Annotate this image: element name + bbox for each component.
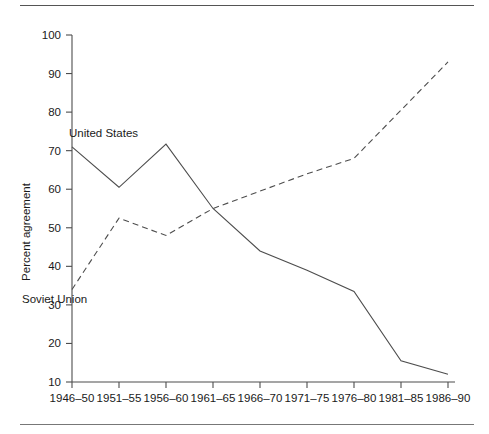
series-annotation-soviet-union: Soviet Union (22, 293, 87, 305)
series-annotation-united-states: United States (69, 127, 138, 139)
y-tick-label: 60 (48, 183, 61, 195)
y-axis-tick-labels: 102030405060708090100 (42, 29, 61, 388)
x-tick-label: 1961–65 (191, 392, 236, 404)
y-axis-title: Percent agreement (20, 182, 32, 281)
x-tick-label: 1981–85 (379, 392, 424, 404)
series-line-soviet-union (72, 62, 448, 289)
figure-container: 102030405060708090100 1946–501951–551956… (0, 0, 489, 434)
x-tick-label: 1946–50 (50, 392, 95, 404)
line-chart: 102030405060708090100 1946–501951–551956… (0, 0, 489, 434)
x-tick-label: 1956–60 (144, 392, 189, 404)
y-tick-label: 40 (48, 260, 61, 272)
y-tick-label: 20 (48, 337, 61, 349)
x-tick-label: 1976–80 (332, 392, 377, 404)
x-tick-label: 1986–90 (426, 392, 471, 404)
y-axis-ticks (66, 35, 72, 382)
y-tick-label: 70 (48, 145, 61, 157)
y-tick-label: 50 (48, 222, 61, 234)
x-tick-label: 1971–75 (285, 392, 330, 404)
y-tick-label: 10 (48, 376, 61, 388)
x-tick-label: 1951–55 (97, 392, 142, 404)
x-axis-ticks (72, 382, 448, 388)
x-axis-tick-labels: 1946–501951–551956–601961–651966–701971–… (50, 392, 471, 404)
y-tick-label: 90 (48, 68, 61, 80)
y-tick-label: 80 (48, 106, 61, 118)
series-lines-group (72, 62, 448, 374)
x-tick-label: 1966–70 (238, 392, 283, 404)
y-tick-label: 100 (42, 29, 61, 41)
series-line-united-states (72, 144, 448, 374)
